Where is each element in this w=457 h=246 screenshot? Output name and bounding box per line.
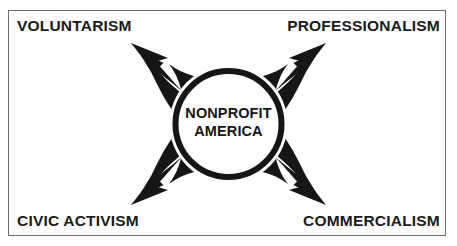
figure-border-frame: [8, 10, 446, 236]
figure-root: NONPROFIT AMERICA VOLUNTARISM PROFESSION…: [0, 0, 457, 246]
corner-label-voluntarism: VOLUNTARISM: [17, 18, 132, 34]
corner-label-civic-activism: CIVIC ACTIVISM: [17, 213, 139, 229]
corner-label-professionalism: PROFESSIONALISM: [287, 18, 440, 34]
corner-label-commercialism: COMMERCIALISM: [303, 213, 440, 229]
